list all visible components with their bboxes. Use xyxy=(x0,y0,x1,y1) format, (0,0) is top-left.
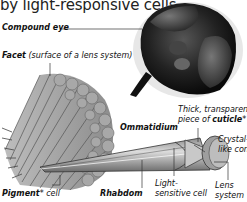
label-pigment-cell: Pigment* cell xyxy=(2,190,60,198)
label-cuticle: Thick, transparent piece of cuticle* xyxy=(178,106,247,124)
label-facet: Facet (surface of a lens system) xyxy=(2,52,132,60)
label-light-sensitive-cell: Light- sensitive cell xyxy=(155,180,207,198)
label-lens-line1: Lens xyxy=(215,182,244,190)
label-rhabdom: Rhabdom xyxy=(100,190,143,198)
label-cuticle-star: * xyxy=(242,115,246,124)
label-pigment-term: Pigment xyxy=(2,189,40,198)
label-light-line2: sensitive cell xyxy=(155,190,207,198)
label-facet-term: Facet xyxy=(2,51,26,60)
label-facet-note: (surface of a lens system) xyxy=(26,51,132,60)
label-crystal-cone: Crystal- like cone xyxy=(218,136,247,154)
label-crystal-line2: like cone xyxy=(218,146,247,154)
label-cuticle-line1: Thick, transparent xyxy=(178,106,247,114)
fly-head-icon xyxy=(130,2,243,98)
label-compound-eye: Compound eye xyxy=(2,24,69,32)
label-cuticle-line2: piece of cuticle* xyxy=(178,116,247,124)
label-lens-line2: system xyxy=(215,192,244,200)
label-cuticle-pre: piece of xyxy=(178,115,212,124)
label-ommatidium: Ommatidium xyxy=(120,124,178,132)
ommatidia-fan-icon xyxy=(2,74,114,190)
label-crystal-line1: Crystal- xyxy=(218,136,247,144)
label-pigment-rest: cell xyxy=(44,189,60,198)
label-light-line1: Light- xyxy=(155,180,207,188)
label-lens-system: Lens system xyxy=(215,182,244,200)
label-cuticle-term: cuticle xyxy=(212,115,242,124)
